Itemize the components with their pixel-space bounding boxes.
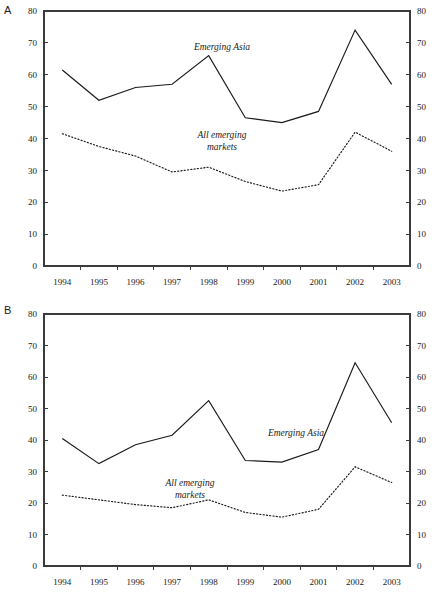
svg-text:70: 70 — [28, 38, 38, 48]
svg-text:30: 30 — [417, 467, 427, 477]
all-emerging-markets-label: All emergingmarkets — [165, 478, 215, 500]
svg-text:20: 20 — [417, 197, 427, 207]
x-tick-label: 2000 — [273, 577, 292, 587]
x-tick-label: 2001 — [310, 577, 328, 587]
svg-text:20: 20 — [28, 498, 38, 508]
svg-text:0: 0 — [417, 261, 422, 271]
svg-text:20: 20 — [28, 197, 38, 207]
panel-a-plot: 0010102020303040405050606070708080199419… — [0, 0, 442, 300]
svg-text:30: 30 — [417, 166, 427, 176]
svg-text:70: 70 — [417, 38, 427, 48]
panel-b-plot: 0010102020303040405050606070708080199419… — [0, 300, 442, 594]
x-tick-label: 2000 — [273, 277, 292, 287]
panel-a: A 00101020203030404050506060707080801994… — [0, 0, 442, 300]
svg-text:40: 40 — [417, 435, 427, 445]
svg-text:0: 0 — [33, 261, 38, 271]
svg-text:0: 0 — [33, 561, 38, 571]
svg-text:50: 50 — [28, 404, 38, 414]
series-line — [62, 363, 391, 464]
svg-text:10: 10 — [28, 530, 38, 540]
x-tick-label: 1997 — [163, 577, 182, 587]
svg-text:10: 10 — [417, 229, 427, 239]
x-tick-label: 2001 — [310, 277, 328, 287]
svg-text:80: 80 — [417, 6, 427, 16]
emerging-asia-label: Emerging Asia — [193, 42, 250, 52]
svg-text:60: 60 — [28, 372, 38, 382]
x-tick-label: 2002 — [346, 277, 364, 287]
svg-text:10: 10 — [417, 530, 427, 540]
svg-text:50: 50 — [417, 102, 427, 112]
x-tick-label: 1999 — [236, 577, 255, 587]
x-tick-label: 1995 — [90, 577, 109, 587]
svg-text:80: 80 — [28, 6, 38, 16]
x-tick-label: 2002 — [346, 577, 364, 587]
x-tick-label: 1994 — [53, 277, 72, 287]
svg-text:40: 40 — [28, 134, 38, 144]
svg-text:70: 70 — [28, 341, 38, 351]
svg-text:80: 80 — [28, 309, 38, 319]
svg-text:50: 50 — [28, 102, 38, 112]
svg-text:40: 40 — [417, 134, 427, 144]
svg-text:30: 30 — [28, 467, 38, 477]
svg-text:40: 40 — [28, 435, 38, 445]
emerging-asia-label: Emerging Asia — [267, 428, 324, 438]
svg-text:80: 80 — [417, 309, 427, 319]
x-tick-label: 1998 — [200, 577, 219, 587]
x-tick-label: 1999 — [236, 277, 255, 287]
x-tick-label: 1997 — [163, 277, 182, 287]
panel-b: B 00101020203030404050506060707080801994… — [0, 300, 442, 594]
x-tick-label: 1996 — [127, 277, 146, 287]
all-emerging-markets-label: All emergingmarkets — [197, 130, 247, 152]
x-tick-label: 1996 — [127, 577, 146, 587]
x-tick-label: 1995 — [90, 277, 109, 287]
svg-text:70: 70 — [417, 341, 427, 351]
svg-text:20: 20 — [417, 498, 427, 508]
series-line — [62, 467, 391, 517]
svg-text:60: 60 — [28, 70, 38, 80]
x-tick-label: 2003 — [383, 577, 402, 587]
x-tick-label: 2003 — [383, 277, 402, 287]
svg-text:60: 60 — [417, 70, 427, 80]
svg-text:10: 10 — [28, 229, 38, 239]
svg-text:0: 0 — [417, 561, 422, 571]
x-tick-label: 1998 — [200, 277, 219, 287]
svg-text:60: 60 — [417, 372, 427, 382]
svg-text:50: 50 — [417, 404, 427, 414]
svg-text:30: 30 — [28, 166, 38, 176]
x-tick-label: 1994 — [53, 577, 72, 587]
